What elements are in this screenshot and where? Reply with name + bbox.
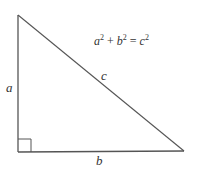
label-c: c bbox=[101, 68, 107, 83]
formula-plus: + bbox=[104, 34, 117, 48]
pythagorean-triangle-diagram: a b c a2 + b2 = c2 bbox=[0, 0, 198, 173]
formula-exp-c: 2 bbox=[145, 33, 149, 42]
label-a: a bbox=[6, 80, 13, 95]
right-angle-marker-icon bbox=[18, 139, 31, 152]
side-b-line bbox=[18, 151, 184, 152]
pythagorean-formula: a2 + b2 = c2 bbox=[94, 33, 149, 48]
formula-equals: = bbox=[127, 34, 140, 48]
label-b: b bbox=[96, 153, 103, 168]
